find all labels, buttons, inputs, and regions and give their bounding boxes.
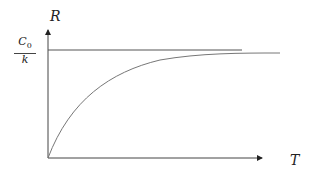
asymptote-subscript: 0 [27, 41, 32, 50]
asymptote-numerator: C [18, 35, 26, 48]
asymptote-label: C0 k [14, 36, 36, 66]
saturation-curve [48, 53, 280, 158]
asymptote-denominator: k [14, 54, 36, 66]
x-axis-label: T [290, 152, 301, 168]
diagram-canvas: R T [0, 0, 314, 172]
y-axis-label: R [49, 8, 61, 24]
